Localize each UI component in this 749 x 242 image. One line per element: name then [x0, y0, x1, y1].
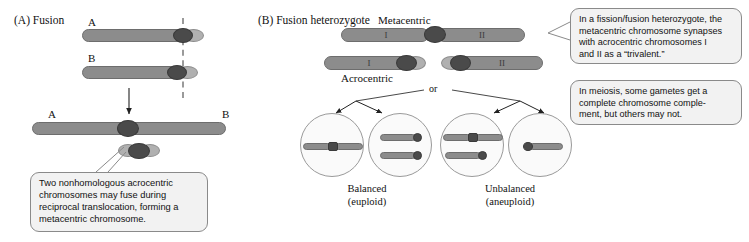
arrow-to-balanced-metacentric: [336, 101, 356, 113]
gamete-circle-unbalanced-single: [508, 113, 572, 177]
acrocentric-i-numeral: I: [368, 58, 371, 68]
or-branch-left: [356, 90, 424, 101]
outcome-balanced-name: Balanced: [333, 183, 401, 194]
callout-trivalent: In a fission/fusion heterozygote, the me…: [570, 8, 742, 64]
outcome-balanced-ploidy: (euploid): [333, 196, 401, 207]
panel-a-label: (A) Fusion: [14, 14, 64, 26]
callout-meiosis-line-1: In meiosis, some gametes get a: [579, 86, 734, 98]
arrow-to-unbalanced-metacentric-plus: [494, 101, 520, 113]
product-arm-a-label: A: [48, 108, 56, 120]
gamete-circle-balanced-acrocentrics: [368, 113, 432, 177]
panel-b-label: (B) Fusion heterozygote: [258, 14, 370, 26]
callout-meiosis: In meiosis, some gametes get a complete …: [570, 80, 742, 125]
metacentric-arm-i-numeral: I: [385, 30, 388, 40]
metacentric-heading: Metacentric: [378, 14, 431, 26]
outcome-unbalanced-name: Unbalanced: [472, 183, 548, 194]
arrow-to-balanced-acrocentrics: [356, 101, 382, 113]
or-branch-label: or: [426, 83, 440, 94]
callout-meiosis-line-2: complete chromosome comple-: [579, 98, 734, 110]
figure-canvas: (A) Fusion A B A B Two nonhomologous acr…: [0, 0, 749, 242]
callout-trivalent-line-1: In a fission/fusion heterozygote, the: [579, 14, 734, 26]
callout-translocation: Two nonhomologous acrocentric chromosome…: [30, 172, 208, 232]
chromosome-a-label: A: [88, 16, 96, 28]
callout-trivalent-line-3: with acrocentric chromosomes I: [579, 37, 734, 49]
callout-trivalent-line-4: and II as a “trivalent.”: [579, 49, 734, 61]
callout-translocation-line-4: metacentric chromosome.: [39, 214, 200, 226]
acrocentric-heading: Acrocentric: [341, 72, 393, 84]
callout-translocation-line-1: Two nonhomologous acrocentric: [39, 178, 200, 190]
callout-translocation-line-3: reciprocal translocation, forming a: [39, 202, 200, 214]
callout-translocation-line-2: chromosomes may fuse during: [39, 190, 200, 202]
acrocentric-ii-centromere: [450, 55, 471, 71]
or-branch-right: [452, 90, 520, 101]
arrow-to-unbalanced-single: [520, 101, 544, 113]
heterozygote-metacentric-centromere: [424, 26, 446, 43]
chromosome-b-label: B: [88, 52, 95, 64]
callout-trivalent-line-2: metacentric chromosome synapses: [579, 26, 734, 38]
fused-metacentric-centromere: [117, 120, 139, 137]
metacentric-arm-ii-numeral: II: [479, 30, 485, 40]
outcome-unbalanced-ploidy: (aneuploid): [472, 196, 548, 207]
gamete-circle-balanced-metacentric: [300, 113, 364, 177]
chromosome-b-centromere: [167, 65, 187, 80]
product-arm-b-label: B: [222, 108, 229, 120]
acrocentric-i-centromere: [396, 55, 417, 71]
gamete-circle-unbalanced-metacentric-plus: [440, 113, 504, 177]
acrocentric-ii-numeral: II: [499, 58, 505, 68]
callout-meiosis-line-3: ment, but others may not.: [579, 109, 734, 121]
chromosome-a-centromere: [173, 28, 193, 43]
callout-trivalent-tail: [548, 22, 570, 40]
